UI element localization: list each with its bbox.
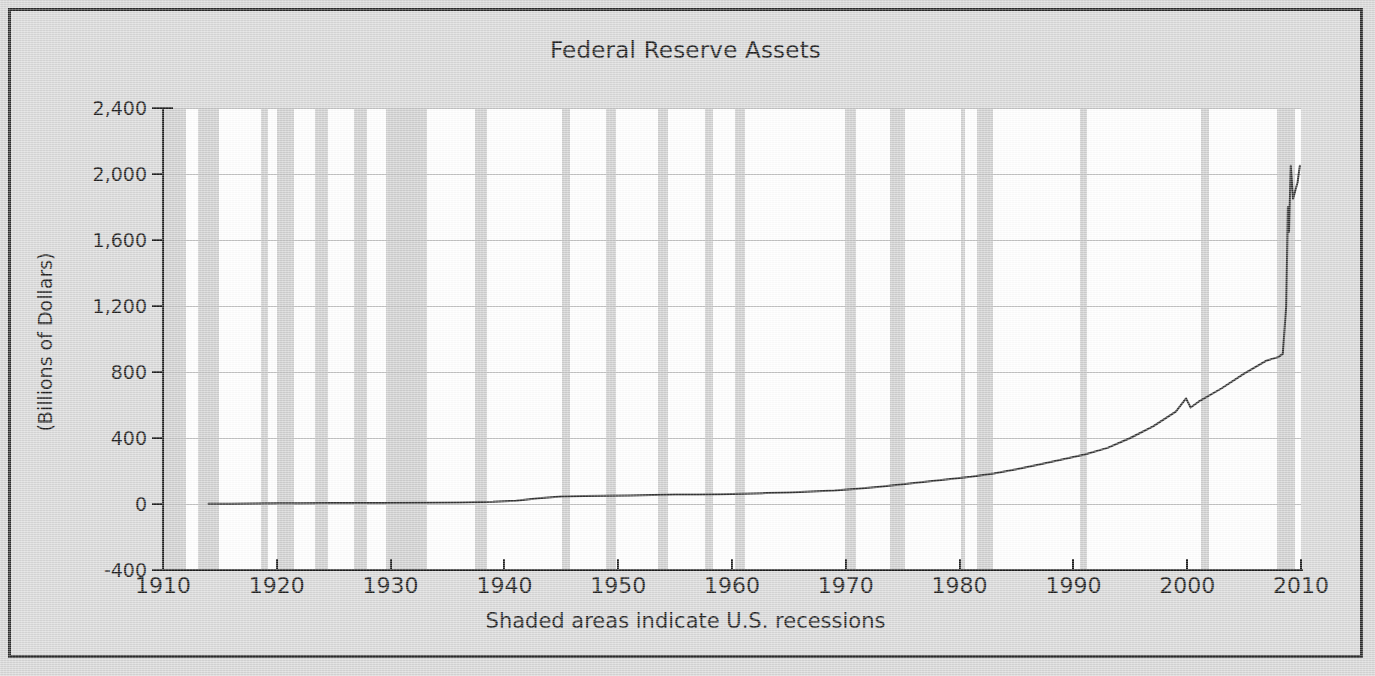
x-tick-mark [845,559,847,570]
x-tick-label: 1940 [458,573,550,598]
y-tick-label: 0 [55,493,147,515]
x-tick-mark [276,559,278,570]
y-tick-label: 1,200 [55,295,147,317]
x-tick-mark [1186,559,1188,570]
x-tick-mark [617,559,619,570]
y-tick-label: 400 [55,427,147,449]
y-tick-label: 2,000 [55,163,147,185]
x-tick-mark [1300,559,1302,570]
plot-area [163,108,1301,570]
recession-legend-note: Shaded areas indicate U.S. recessions [11,609,1360,633]
x-tick-label: 1980 [914,573,1006,598]
y-tick-mark [152,503,163,505]
y-tick-mark [152,437,163,439]
x-tick-mark [959,559,961,570]
x-tick-mark [162,559,164,570]
x-tick-label: 2010 [1255,573,1347,598]
y-tick-label: 800 [55,361,147,383]
y-tick-mark [152,107,163,109]
x-tick-mark [390,559,392,570]
x-tick-mark [731,559,733,570]
x-tick-label: 1950 [572,573,664,598]
x-tick-label: 1990 [1027,573,1119,598]
x-tick-label: 1960 [686,573,778,598]
y-tick-mark [152,239,163,241]
y-tick-label: 2,400 [55,97,147,119]
chart-title: Federal Reserve Assets [11,37,1360,63]
y-tick-mark [152,371,163,373]
y-tick-mark [152,173,163,175]
figure-border: Federal Reserve Assets (Billions of Doll… [8,8,1363,658]
x-tick-mark [503,559,505,570]
chart-figure: Federal Reserve Assets (Billions of Doll… [0,0,1375,676]
y-tick-mark [152,305,163,307]
x-tick-label: 1970 [800,573,892,598]
x-tick-label: 1930 [345,573,437,598]
y-tick-label: 1,600 [55,229,147,251]
y-axis-title: (Billions of Dollars) [34,112,56,572]
y-axis-line [162,107,164,571]
x-tick-mark [1072,559,1074,570]
x-tick-label: 1920 [231,573,323,598]
x-tick-label: 2000 [1141,573,1233,598]
series-line-federal-reserve-assets [163,108,1301,570]
x-tick-label: 1910 [117,573,209,598]
